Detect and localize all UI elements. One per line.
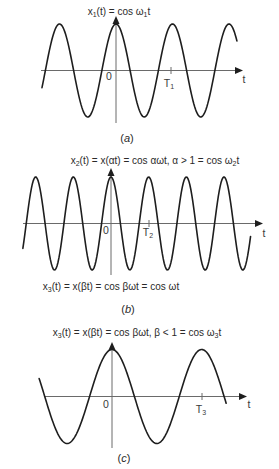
panel-a: x1(t) = cos ω1t 0 T1 t (a): [41, 6, 246, 144]
panel-a-axis-label: t: [243, 73, 246, 85]
panel-c: x3(t) = x(βt) = cos βωt, β < 1 = cos ω3t…: [39, 327, 250, 464]
panel-b-caption: (b): [121, 303, 134, 315]
panel-b: x2(t) = x(αt) = cos αωt, α > 1 = cos ω2t…: [23, 155, 266, 315]
panel-b-x-arrow-icon: [255, 220, 263, 227]
panel-a-caption: (a): [120, 132, 133, 144]
panel-a-period-label: T1: [164, 77, 174, 90]
panel-c-caption: (c): [118, 452, 131, 464]
panel-c-axis-label: t: [248, 398, 251, 410]
panel-a-origin-label: 0: [106, 70, 112, 82]
panel-c-x-arrow-icon: [239, 393, 247, 400]
panel-b-y-arrow-icon: [108, 168, 115, 176]
panel-b-annotation: x3(t) = x(βt) = cos βωt = cos ωt: [43, 281, 180, 293]
panel-b-axis-label: t: [263, 227, 266, 239]
panel-c-title: x3(t) = x(βt) = cos βωt, β < 1 = cos ω3t: [53, 327, 222, 339]
panel-b-title: x2(t) = x(αt) = cos αωt, α > 1 = cos ω2t: [71, 155, 240, 167]
figure-canvas: x1(t) = cos ω1t 0 T1 t (a) x2(t) = x(αt)…: [0, 0, 279, 469]
panel-c-period-label: T3: [196, 403, 206, 416]
panel-a-title: x1(t) = cos ω1t: [88, 6, 151, 18]
panel-c-origin-label: 0: [103, 398, 109, 410]
panel-b-period-label: T2: [143, 226, 153, 239]
panel-a-y-arrow-icon: [113, 16, 120, 24]
panel-b-origin-label: 0: [103, 224, 109, 236]
